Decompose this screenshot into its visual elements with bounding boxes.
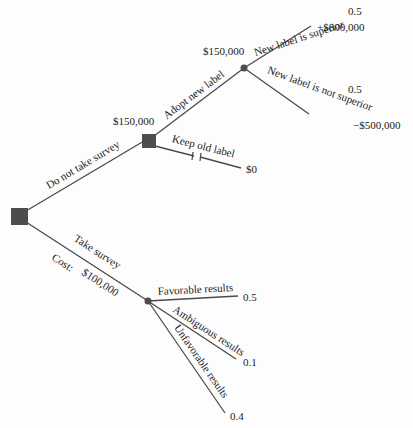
keep-old-label-pruned-mark-a xyxy=(192,152,193,160)
branch-keep-old-label-b xyxy=(200,157,241,168)
keep-old-label-payoff: $0 xyxy=(246,164,257,175)
new-label-superior-payoff: +$800,000 xyxy=(317,22,364,33)
ambiguous-results-probability: 0.1 xyxy=(243,357,257,368)
new-label-superior-probability: 0.5 xyxy=(348,6,362,17)
label-decision-value: $150,000 xyxy=(113,116,154,127)
branch-do-not-take-survey xyxy=(26,141,144,211)
unfavorable-results-probability: 0.4 xyxy=(230,411,244,422)
label-chance-node xyxy=(241,65,248,72)
new-label-not-superior-probability: 0.5 xyxy=(348,84,362,95)
branch-adopt-new-label xyxy=(154,68,244,136)
decision-tree-diagram: Do not take survey $150,000 Adopt new la… xyxy=(0,0,413,428)
branch-take-survey xyxy=(26,222,148,301)
new-label-not-superior-payoff: −$500,000 xyxy=(353,120,400,131)
label-chance-value: $150,000 xyxy=(203,46,244,57)
survey-chance-node xyxy=(145,298,152,305)
label-decision-node xyxy=(142,134,156,148)
favorable-results-probability: 0.5 xyxy=(243,292,257,303)
root-decision-node xyxy=(11,208,28,225)
keep-old-label-pruned-mark-b xyxy=(200,153,201,161)
